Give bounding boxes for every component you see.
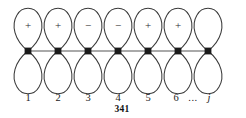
phase-sign-3: − [85, 19, 91, 31]
node-square-6 [175, 48, 182, 55]
orbital-group-3: − 3 [74, 8, 102, 103]
node-square-4 [115, 48, 122, 55]
figure-caption: 341 [114, 104, 129, 114]
orbital-index-label-2: 2 [55, 92, 60, 103]
node-square-1 [25, 48, 32, 55]
lower-lobe-4 [104, 51, 132, 94]
phase-sign-5: + [145, 19, 151, 31]
lower-lobe-j [194, 51, 222, 94]
phase-sign-6: + [175, 19, 181, 31]
orbital-index-label-6: 6 [173, 92, 178, 103]
phase-sign-2: + [55, 19, 61, 31]
lower-lobe-1 [14, 51, 42, 94]
lower-lobe-5 [134, 51, 162, 94]
node-square-5 [145, 48, 152, 55]
orbital-diagram-svg: + 1 + 2 − 3 − 4 [0, 0, 246, 118]
node-square-3 [85, 48, 92, 55]
phase-sign-4: − [115, 19, 121, 31]
orbital-group-j: j [194, 8, 222, 103]
lower-lobe-3 [74, 51, 102, 94]
orbital-chain-figure: + 1 + 2 − 3 − 4 [0, 0, 246, 118]
node-square-2 [55, 48, 62, 55]
upper-lobe-j [194, 8, 222, 51]
lower-lobe-6 [164, 51, 192, 94]
node-square-j [205, 48, 212, 55]
orbital-index-label-4: 4 [115, 92, 121, 103]
phase-sign-1: + [25, 19, 31, 31]
orbital-group-4: − 4 [104, 8, 132, 103]
orbital-group-6: + 6 [164, 8, 192, 103]
orbital-group-2: + 2 [44, 8, 72, 103]
orbital-index-label-3: 3 [85, 92, 90, 103]
ellipsis-label: ... [188, 92, 197, 103]
orbital-group-5: + 5 [134, 8, 162, 103]
orbital-index-label-5: 5 [145, 92, 150, 103]
orbital-index-label-1: 1 [25, 92, 30, 103]
orbital-group-1: + 1 [14, 8, 42, 103]
lower-lobe-2 [44, 51, 72, 94]
